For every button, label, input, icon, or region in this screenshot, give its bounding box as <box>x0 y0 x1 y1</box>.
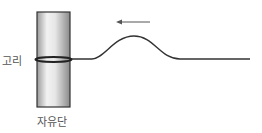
ring-label: 고리 <box>2 52 22 68</box>
free-end-label: 자유단 <box>37 113 67 129</box>
string-wave <box>70 36 250 59</box>
arrow-left-icon <box>116 20 150 25</box>
pole <box>37 12 70 107</box>
